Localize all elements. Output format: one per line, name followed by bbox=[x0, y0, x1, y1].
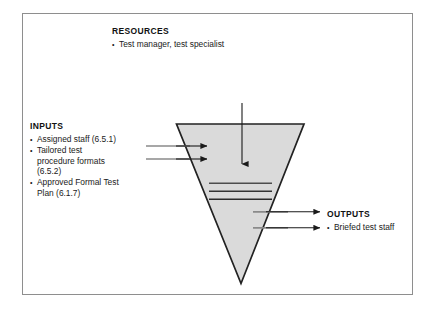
outputs-list: Briefed test staff bbox=[327, 222, 417, 233]
resources-block: RESOURCES Test manager, test specialist bbox=[112, 26, 312, 50]
list-item: Tailored test procedure formats (6.5.2) bbox=[30, 145, 145, 177]
outputs-heading: OUTPUTS bbox=[327, 209, 417, 220]
list-item: Approved Formal Test Plan (6.1.7) bbox=[30, 177, 145, 198]
resources-list: Test manager, test specialist bbox=[112, 39, 312, 50]
list-item: Briefed test staff bbox=[327, 222, 417, 233]
outputs-item-text: Briefed test staff bbox=[334, 222, 394, 232]
inputs-block: INPUTS Assigned staff (6.5.1) Tailored t… bbox=[30, 121, 145, 199]
resources-item-text: Test manager, test specialist bbox=[119, 39, 224, 49]
inputs-item-continuation: (6.5.2) bbox=[37, 166, 145, 177]
inverted-triangle-shape bbox=[177, 124, 305, 284]
inputs-item-text: Assigned staff (6.5.1) bbox=[37, 134, 116, 144]
inputs-heading: INPUTS bbox=[30, 121, 145, 132]
list-item: Assigned staff (6.5.1) bbox=[30, 134, 145, 145]
inputs-item-text: Approved Formal Test bbox=[37, 177, 119, 187]
inputs-item-continuation: Plan (6.1.7) bbox=[37, 188, 145, 199]
outputs-block: OUTPUTS Briefed test staff bbox=[327, 209, 417, 233]
inputs-item-text: Tailored test bbox=[37, 145, 82, 155]
inputs-item-continuation: procedure formats bbox=[37, 156, 145, 167]
inputs-list: Assigned staff (6.5.1) Tailored test pro… bbox=[30, 134, 145, 199]
resources-heading: RESOURCES bbox=[112, 26, 312, 37]
list-item: Test manager, test specialist bbox=[112, 39, 312, 50]
